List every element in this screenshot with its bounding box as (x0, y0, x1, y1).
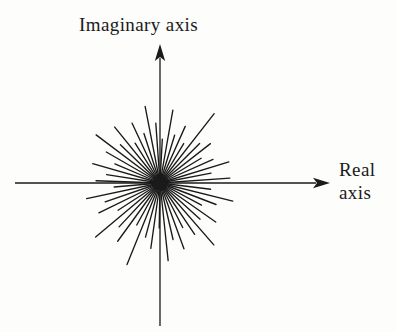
real-axis-label: Real axis (339, 158, 375, 204)
phasor-ray (127, 183, 160, 265)
phasor-ray (160, 183, 214, 245)
complex-plane-figure: Imaginary axis Real axis (0, 0, 397, 332)
starburst-diagram (0, 0, 397, 332)
real-axis-label-line1: Real (339, 158, 375, 181)
imaginary-axis-label: Imaginary axis (79, 13, 198, 36)
origin-point (153, 176, 168, 191)
phasor-ray (96, 135, 160, 183)
real-axis-label-line2: axis (339, 181, 375, 204)
phasor-ray (160, 114, 214, 183)
